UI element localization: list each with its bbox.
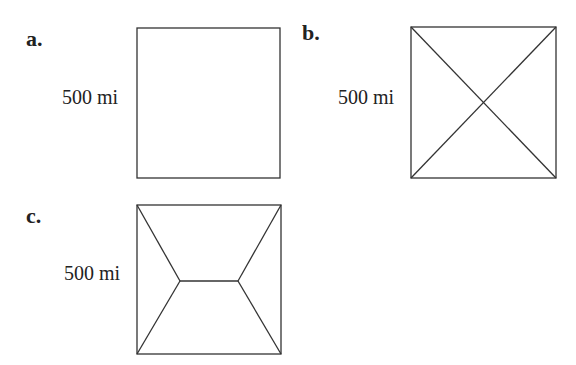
- panel-a-square: [137, 28, 280, 178]
- panel-c-network: [137, 205, 281, 354]
- network-diagrams: [0, 0, 576, 365]
- panel-b-network: [411, 27, 556, 178]
